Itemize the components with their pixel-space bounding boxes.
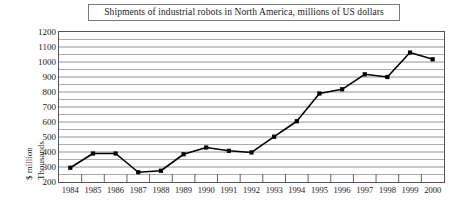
x-axis-tick-label: 1986: [107, 186, 124, 195]
y-axis-tick-label: 200: [18, 178, 56, 187]
data-point-marker: [181, 152, 185, 156]
x-axis-tick-label: 1988: [152, 186, 169, 195]
y-axis-tick-label: 1100: [18, 43, 56, 52]
y-axis-tick-label: 500: [18, 133, 56, 142]
x-axis-tick-label: 1984: [62, 186, 79, 195]
x-axis-tick-label: 1989: [175, 186, 192, 195]
data-point-marker: [408, 50, 412, 54]
x-axis-tick-label: 1992: [243, 186, 260, 195]
data-point-marker: [363, 72, 367, 76]
chart-title: Shipments of industrial robots in North …: [104, 8, 384, 18]
y-axis-tick-label: 1200: [18, 28, 56, 37]
data-point-marker: [272, 135, 276, 139]
y-axis-tick-label: 900: [18, 73, 56, 82]
data-point-marker: [136, 170, 140, 174]
line-chart-svg: [59, 32, 444, 182]
x-axis-tick-label: 1999: [402, 186, 419, 195]
y-axis-tick-label: 300: [18, 163, 56, 172]
data-point-marker: [159, 169, 163, 173]
x-axis-tick-label: 1993: [266, 186, 283, 195]
x-axis-tick-label: 1998: [379, 186, 396, 195]
data-point-marker: [340, 87, 344, 91]
data-point-marker: [249, 150, 253, 154]
x-axis-tick-label: 1987: [130, 186, 147, 195]
y-axis-tick-label: 700: [18, 103, 56, 112]
x-axis-tick-label: 1990: [198, 186, 215, 195]
x-axis-tick-label: 1997: [356, 186, 373, 195]
data-point-marker: [317, 91, 321, 95]
x-axis-tick-labels: 1984198519861987198819891990199119921993…: [58, 186, 445, 200]
chart-figure: Shipments of industrial robots in North …: [0, 0, 470, 211]
data-point-marker: [114, 151, 118, 155]
y-axis-tick-label: 1000: [18, 58, 56, 67]
data-point-marker: [227, 149, 231, 153]
data-point-marker: [68, 166, 72, 170]
y-axis-tick-label: 400: [18, 148, 56, 157]
y-axis-tick-label: 600: [18, 118, 56, 127]
x-axis-tick-label: 1994: [288, 186, 305, 195]
data-point-marker: [204, 145, 208, 149]
x-axis-tick-label: 2000: [424, 186, 441, 195]
data-point-marker: [91, 151, 95, 155]
y-axis-tick-label: 800: [18, 88, 56, 97]
x-axis-tick-marks: [82, 174, 422, 182]
data-point-marker: [431, 57, 435, 61]
x-axis-tick-label: 1985: [84, 186, 101, 195]
y-axis-tick-labels: 200300400500600700800900100011001200: [18, 31, 56, 183]
chart-title-box: Shipments of industrial robots in North …: [88, 4, 400, 21]
x-axis-tick-label: 1991: [220, 186, 237, 195]
data-point-marker: [295, 119, 299, 123]
x-axis-tick-label: 1996: [334, 186, 351, 195]
data-point-markers: [68, 50, 435, 174]
data-point-marker: [385, 75, 389, 79]
x-axis-tick-label: 1995: [311, 186, 328, 195]
plot-area: [58, 31, 445, 183]
